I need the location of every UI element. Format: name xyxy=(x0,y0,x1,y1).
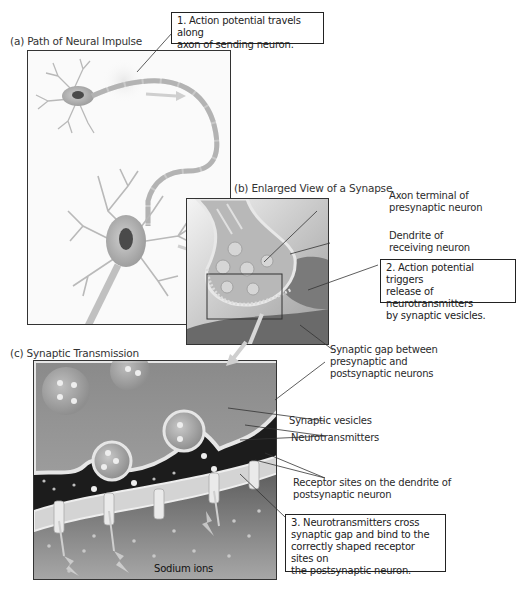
label-sodium-ions: Sodium ions xyxy=(154,563,213,575)
callout-2-line-1: 2. Action potential triggers xyxy=(386,262,510,286)
label-neurotransmitters: Neurotransmitters xyxy=(291,432,379,444)
callout-step-2: 2. Action potential triggers release of … xyxy=(380,259,516,303)
label-dendrite-line-2: receiving neuron xyxy=(389,242,470,254)
panel-c-title: (c) Synaptic Transmission xyxy=(10,347,139,359)
callout-step-3: 3. Neurotransmitters cross synaptic gap … xyxy=(285,514,446,572)
panel-b-synapse xyxy=(186,198,329,345)
impulse-arrow xyxy=(146,94,176,96)
panel-a-title: (a) Path of Neural Impulse xyxy=(10,35,142,47)
label-receptor-sites: Receptor sites on the dendrite of postsy… xyxy=(293,477,451,501)
label-receptor-sites-line-1: Receptor sites on the dendrite of xyxy=(293,477,451,489)
callout-2-line-3: by synaptic vesicles. xyxy=(386,310,510,322)
label-receptor-sites-line-2: postsynaptic neuron xyxy=(293,489,451,501)
synapse-illustration xyxy=(187,199,329,345)
transmission-illustration xyxy=(34,361,277,580)
label-synaptic-gap: Synaptic gap between presynaptic and pos… xyxy=(330,344,438,380)
label-dendrite: Dendrite of receiving neuron xyxy=(389,230,470,254)
callout-3-line-1: 3. Neurotransmitters cross xyxy=(291,517,440,529)
callout-3-line-4: the postsynaptic neuron. xyxy=(291,565,440,577)
label-axon-terminal: Axon terminal of presynaptic neuron xyxy=(389,190,482,214)
callout-3-line-2: synaptic gap and bind to the xyxy=(291,529,440,541)
callout-3-line-3: correctly shaped receptor sites on xyxy=(291,541,440,565)
callout-2-line-2: release of neurotransmitters xyxy=(386,286,510,310)
label-synaptic-gap-line-3: postsynaptic neurons xyxy=(330,368,438,380)
label-axon-terminal-line-1: Axon terminal of xyxy=(389,190,482,202)
callout-1-line-1: 1. Action potential travels along xyxy=(177,15,318,39)
callout-step-1: 1. Action potential travels along axon o… xyxy=(171,12,324,44)
callout-1-line-2: axon of sending neuron. xyxy=(177,39,318,51)
label-synaptic-vesicles: Synaptic vesicles xyxy=(289,415,372,427)
label-axon-terminal-line-2: presynaptic neuron xyxy=(389,202,482,214)
panel-b-title: (b) Enlarged View of a Synapse xyxy=(234,182,392,194)
label-synaptic-gap-line-1: Synaptic gap between xyxy=(330,344,438,356)
label-synaptic-gap-line-2: presynaptic and xyxy=(330,356,438,368)
panel-c-transmission: Sodium ions xyxy=(33,360,277,580)
label-dendrite-line-1: Dendrite of xyxy=(389,230,470,242)
arrow-b-to-c-icon xyxy=(222,340,252,370)
